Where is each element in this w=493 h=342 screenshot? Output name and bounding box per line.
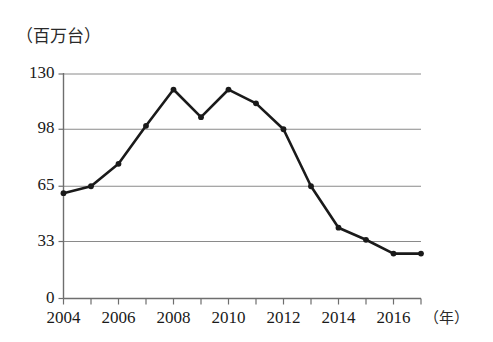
data-point-marker bbox=[308, 183, 314, 189]
data-point-marker bbox=[88, 183, 94, 189]
data-point-marker bbox=[418, 251, 424, 257]
x-axis-ticks bbox=[64, 299, 422, 305]
data-point-marker bbox=[363, 237, 369, 243]
data-point-marker bbox=[61, 190, 67, 196]
data-point-markers bbox=[61, 87, 424, 257]
data-point-marker bbox=[336, 225, 342, 231]
data-series-line bbox=[64, 90, 422, 254]
gridlines bbox=[64, 74, 422, 242]
line-chart: （百万台） （年） 0336598130 2004200620082010201… bbox=[0, 0, 493, 342]
data-point-marker bbox=[391, 251, 397, 257]
data-point-marker bbox=[226, 87, 232, 93]
data-point-marker bbox=[253, 100, 259, 106]
plot-area bbox=[0, 0, 493, 342]
data-point-marker bbox=[116, 161, 122, 167]
y-axis-ticks bbox=[59, 74, 64, 299]
data-point-marker bbox=[281, 126, 287, 132]
data-point-marker bbox=[198, 114, 204, 120]
data-point-marker bbox=[171, 87, 177, 93]
data-point-marker bbox=[143, 123, 149, 129]
